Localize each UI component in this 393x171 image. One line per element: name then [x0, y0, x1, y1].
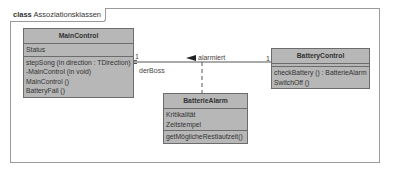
class-name: BatteryControl [272, 49, 369, 64]
association-name: alarmiert [198, 54, 225, 61]
attribute: Kritikalität [166, 110, 245, 120]
attribute: Zeitstempel [166, 120, 245, 130]
operations-compartment: getMöglicheRestlaufzeit() [164, 131, 247, 143]
operation: MainControl () [26, 77, 131, 87]
attributes-compartment: Status [24, 44, 133, 57]
attributes-compartment: Kritikalität Zeitstempel [164, 109, 247, 131]
operation: SwitchOff () [274, 78, 367, 88]
operation: BatteryFail () [26, 86, 131, 96]
class-name: MainControl [24, 29, 133, 44]
class-name: BatterieAlarm [164, 94, 247, 109]
direction-arrow-icon [186, 55, 196, 61]
operations-compartment: checkBattery () : BatterieAlarm SwitchOf… [272, 67, 369, 88]
multiplicity-battery: 1 [266, 55, 270, 62]
attribute: Status [26, 45, 131, 55]
class-battery-control[interactable]: BatteryControl checkBattery () : Batteri… [271, 48, 370, 89]
operation: getMöglicheRestlaufzeit() [166, 132, 245, 142]
operation: -MainControl (in void) [26, 67, 131, 77]
operation: stepSong (in direction : TDirection) [26, 58, 131, 68]
class-main-control[interactable]: MainControl Status stepSong (in directio… [23, 28, 134, 98]
class-batterie-alarm[interactable]: BatterieAlarm Kritikalität Zeitstempel g… [163, 93, 248, 144]
operation: checkBattery () : BatterieAlarm [274, 68, 367, 78]
role-name-main: derBoss [139, 67, 165, 74]
multiplicity-main: 1 [135, 53, 139, 60]
operations-compartment: stepSong (in direction : TDirection) -Ma… [24, 57, 133, 97]
